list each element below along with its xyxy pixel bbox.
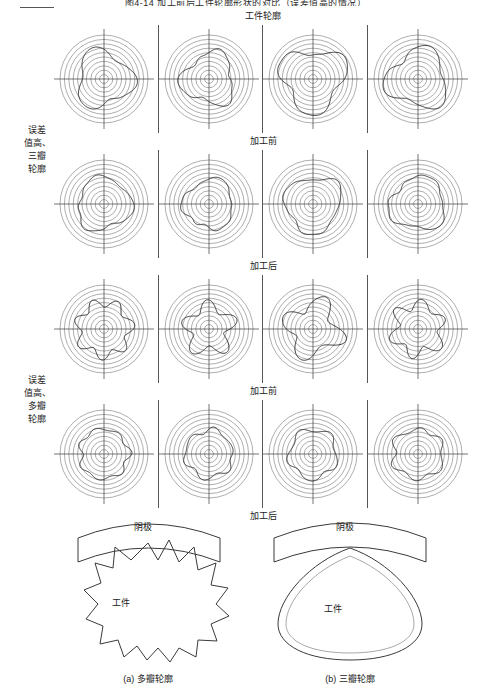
group-label-line: 误差 xyxy=(20,124,54,137)
workpiece-label: 工件 xyxy=(112,597,130,608)
table-row: 误差 值高、 三瓣 轮廓 xyxy=(20,25,472,133)
polar-chart xyxy=(263,277,363,381)
band-row: 加工前 xyxy=(20,133,472,150)
cathode-label: 阴极 xyxy=(134,521,152,532)
band-after-machining: 加工后 xyxy=(54,258,472,275)
row-group-label-three-lobe: 误差 值高、 三瓣 轮廓 xyxy=(20,25,54,275)
polar-chart xyxy=(368,402,468,506)
polar-chart xyxy=(368,277,468,381)
polar-plot-cell xyxy=(158,275,262,383)
table-row: 误差 值高、 多瓣 轮廓 xyxy=(20,275,472,383)
polar-plot-cell xyxy=(54,150,158,258)
polar-plot-cell xyxy=(262,150,367,258)
cathode-arc-inner xyxy=(78,548,220,562)
table-header-row: 工件轮廓 xyxy=(20,8,472,25)
polar-chart xyxy=(263,152,363,256)
polar-plot-cell xyxy=(54,275,158,383)
polar-chart xyxy=(159,152,259,256)
table-row xyxy=(20,400,472,508)
polar-plot-cell xyxy=(54,400,158,508)
workpiece-label: 工件 xyxy=(324,603,342,614)
polar-chart xyxy=(54,152,154,256)
figure-page: 图4-14 加工前后工件轮廓形状的对比（误差值高的情况） 工件轮廓 误差 值高、… xyxy=(0,0,491,687)
polar-plot-cell xyxy=(367,25,472,133)
workpiece-inner-guide xyxy=(286,556,414,653)
group-label-line: 轮廓 xyxy=(20,163,54,176)
polar-plot-cell xyxy=(262,275,367,383)
polar-chart xyxy=(159,402,259,506)
polar-chart xyxy=(263,27,363,131)
polar-chart xyxy=(368,152,468,256)
figure-title: 图4-14 加工前后工件轮廓形状的对比（误差值高的情况） xyxy=(0,0,491,6)
profile-comparison-table: 工件轮廓 误差 值高、 三瓣 轮廓 加工前 xyxy=(20,7,472,525)
schematic-multi-lobe: 工件 阴极 (a) 多瓣轮廓 xyxy=(48,500,248,687)
polar-plot-cell xyxy=(158,150,262,258)
schematic-multi-lobe-drawing: 工件 阴极 xyxy=(48,500,248,665)
polar-plot-cell xyxy=(262,25,367,133)
band-before-machining: 加工前 xyxy=(54,133,472,150)
polar-plot-cell xyxy=(367,400,472,508)
cathode-arc-inner xyxy=(274,547,426,562)
polar-chart xyxy=(54,27,154,131)
group-label-line: 三瓣 xyxy=(20,150,54,163)
row-group-label-multi-lobe: 误差 值高、 多瓣 轮廓 xyxy=(20,275,54,525)
polar-chart xyxy=(54,277,154,381)
group-label-line: 值高、 xyxy=(20,137,54,150)
schematic-three-lobe: 工件 阴极 (b) 三瓣轮廓 xyxy=(250,500,450,687)
band-before-machining: 加工前 xyxy=(54,383,472,400)
polar-chart xyxy=(368,27,468,131)
schematic-three-lobe-drawing: 工件 阴极 xyxy=(250,500,450,665)
polar-plot-cell xyxy=(262,400,367,508)
group-label-line: 多瓣 xyxy=(20,400,54,413)
polar-plot-cell xyxy=(158,400,262,508)
polar-plot-cell xyxy=(158,25,262,133)
schematic-caption-b: (b) 三瓣轮廓 xyxy=(250,672,450,685)
polar-plot-cell xyxy=(367,275,472,383)
profile-trace xyxy=(286,429,337,481)
polar-plot-cell xyxy=(54,25,158,133)
polar-chart xyxy=(263,402,363,506)
cathode-label: 阴极 xyxy=(336,521,354,532)
header-spacer xyxy=(20,8,54,25)
table-row xyxy=(20,150,472,258)
band-row: 加工前 xyxy=(20,383,472,400)
group-label-line: 误差 xyxy=(20,374,54,387)
band-row: 加工后 xyxy=(20,258,472,275)
schematic-area: 工件 阴极 (a) 多瓣轮廓 工件 阴极 (b) 三瓣轮廓 xyxy=(0,500,491,687)
polar-chart xyxy=(159,27,259,131)
workpiece-multi-lobe-outline xyxy=(84,540,229,662)
polar-chart xyxy=(159,277,259,381)
group-label-line: 值高、 xyxy=(20,387,54,400)
polar-plot-cell xyxy=(367,150,472,258)
polar-chart xyxy=(54,402,154,506)
schematic-caption-a: (a) 多瓣轮廓 xyxy=(48,672,248,685)
band-workpiece-profile: 工件轮廓 xyxy=(54,8,472,25)
group-label-line: 轮廓 xyxy=(20,413,54,426)
